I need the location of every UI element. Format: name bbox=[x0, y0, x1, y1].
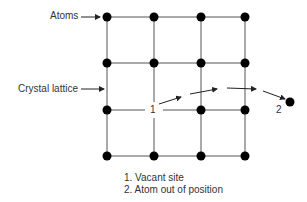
crystal-lattice-label: Crystal lattice bbox=[18, 83, 78, 94]
legend-item-atom-out-of-position: 2. Atom out of position bbox=[124, 184, 223, 196]
movement-arrows bbox=[159, 88, 285, 104]
atoms-label: Atoms bbox=[50, 10, 78, 21]
legend: 1. Vacant site 2. Atom out of position bbox=[124, 172, 223, 196]
displaced-marker: 2 bbox=[276, 104, 282, 115]
legend-item-vacant-site: 1. Vacant site bbox=[124, 172, 223, 184]
displaced-atom bbox=[286, 98, 295, 107]
vacancy-marker: 1 bbox=[150, 104, 156, 115]
atoms bbox=[103, 13, 295, 161]
pointer-arrows bbox=[81, 17, 104, 89]
lattice-lines bbox=[107, 17, 245, 156]
